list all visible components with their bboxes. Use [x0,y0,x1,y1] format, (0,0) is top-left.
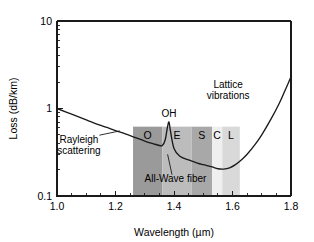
y-axis-title: Loss (dB/km) [7,78,19,140]
x-tick-label: 1.8 [284,200,299,212]
y-tick-label: 0.1 [37,190,52,202]
band-label-o: O [144,129,152,141]
band-label-s: S [198,129,205,141]
annotation-rayleigh-scattering: Rayleigh [59,134,98,145]
rayleigh-leader [99,131,120,135]
x-tick-label: 1.6 [225,200,240,212]
labels-layer: 1.01.21.41.61.81010.1OESCLRayleighscatte… [7,15,298,238]
fiber-loss-chart-figure: 1.01.21.41.61.81010.1OESCLRayleighscatte… [0,0,314,242]
x-tick-label: 1.2 [108,200,123,212]
band-label-c: C [213,129,221,141]
chart-canvas: 1.01.21.41.61.81010.1OESCLRayleighscatte… [0,0,314,242]
annotation-lattice-vibrations: Lattice [213,79,243,90]
annotation-lattice-vibrations: vibrations [207,90,250,101]
annotation-all-wave-fiber: All-Wave fiber [145,173,208,184]
annotation-rayleigh-scattering: scattering [57,145,100,156]
band-label-l: L [228,129,234,141]
x-tick-label: 1.4 [167,200,182,212]
y-tick-label: 10 [40,15,52,27]
band-label-e: E [173,129,180,141]
x-axis-title: Wavelength (µm) [134,226,214,238]
y-tick-label: 1 [46,102,52,114]
annotation-oh-peak: OH [162,108,177,119]
